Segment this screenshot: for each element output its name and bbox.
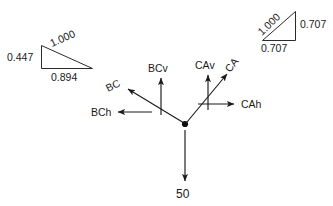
vector-cah-label: CAh [241,98,262,110]
vector-bc: BC [104,76,184,123]
vector-bc-label: BC [104,76,123,93]
bc-triangle-hypotenuse-label: 1.000 [48,27,77,49]
bc-triangle-outline [42,46,93,69]
vector-ca-label: CA [222,55,240,74]
ca-triangle-hypotenuse-label: 1.000 [255,10,282,37]
vector-cav-label: CAv [195,59,215,71]
applied-force-label: 50 [176,187,190,201]
vector-bch-label: BCh [91,106,112,118]
vector-bch: BCh [91,106,152,118]
vector-ca-arrow [187,74,227,122]
origin-point [182,121,188,127]
diagram-canvas: 0.447 1.000 0.894 1.000 0.707 0.707 BC B… [0,0,333,206]
bc-triangle-vertical-label: 0.447 [7,51,33,63]
bc-slope-triangle: 0.447 1.000 0.894 [7,27,93,83]
ca-slope-triangle: 1.000 0.707 0.707 [255,10,326,54]
ca-triangle-horizontal-label: 0.707 [261,42,287,54]
bc-triangle-horizontal-label: 0.894 [51,71,77,83]
vector-cav: CAv [195,59,215,110]
applied-force-50: 50 [176,130,190,201]
vector-bcv-label: BCv [148,62,169,74]
vector-bc-arrow [128,89,184,123]
ca-triangle-vertical-label: 0.707 [300,18,326,30]
